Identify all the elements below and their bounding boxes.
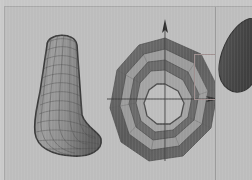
viewport-screenshot <box>0 0 252 180</box>
viewport-inner-border <box>4 6 252 180</box>
